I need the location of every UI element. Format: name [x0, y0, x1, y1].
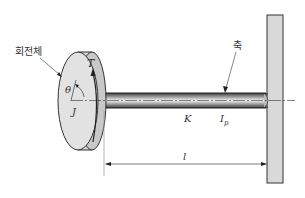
length-label: l	[183, 151, 186, 162]
torsional-vibration-diagram: 회전체 축 T θ J K Ip l	[0, 0, 305, 198]
shaft-label: 축	[233, 40, 242, 51]
inertia-label: J	[70, 106, 77, 117]
dimension-arrow-right-icon	[261, 162, 267, 166]
angle-label: θ	[65, 84, 71, 95]
polar-moment-label: Ip	[219, 113, 229, 127]
stiffness-label: K	[183, 113, 192, 124]
fixed-wall	[267, 15, 283, 183]
rotor-disk	[58, 52, 106, 150]
rotor-leader-line	[40, 58, 60, 75]
polar-moment-subscript: p	[224, 119, 229, 127]
shaft-leader-line	[226, 52, 236, 88]
shaft-leader-arrow-icon	[223, 86, 228, 93]
dimension-arrow-left-icon	[105, 162, 111, 166]
rotor-label: 회전체	[15, 46, 42, 57]
